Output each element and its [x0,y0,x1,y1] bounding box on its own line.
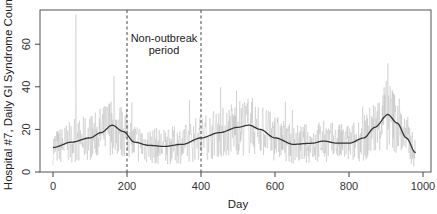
svg-text:200: 200 [118,180,136,192]
svg-text:1000: 1000 [411,180,435,192]
svg-text:800: 800 [340,180,358,192]
x-axis-label: Day [228,198,249,210]
y-axis: 0204060 [20,38,40,175]
svg-text:60: 60 [20,38,32,50]
plot-frame [40,10,431,172]
daily-count-series [53,14,416,166]
svg-text:600: 600 [266,180,284,192]
svg-text:20: 20 [20,123,32,135]
svg-text:400: 400 [192,180,210,192]
svg-text:period: period [149,44,180,56]
non-outbreak-annotation: Non-outbreakperiod [131,32,198,56]
svg-text:Non-outbreak: Non-outbreak [131,32,198,44]
chart: 02004006008001000 0204060 Day Hospital #… [0,0,437,214]
svg-text:0: 0 [20,169,32,175]
svg-text:40: 40 [20,81,32,93]
svg-text:0: 0 [50,180,56,192]
x-axis: 02004006008001000 [50,172,435,192]
y-axis-label: Hospital #7, Daily GI Syndrome Count [2,0,14,190]
